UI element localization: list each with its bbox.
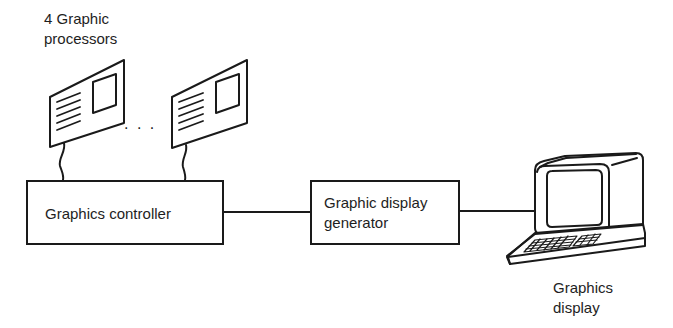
processor-board-icon xyxy=(172,60,247,180)
display-label-line1: Graphics xyxy=(553,278,613,297)
generator-label-line1: Graphic display xyxy=(324,193,427,212)
computer-terminal-icon xyxy=(507,153,645,264)
graphics-controller-box: Graphics controller xyxy=(26,180,224,245)
processor-board-icon xyxy=(50,60,124,180)
graphic-display-generator-box: Graphic display generator xyxy=(310,180,460,245)
graphics-controller-label: Graphics controller xyxy=(45,204,171,223)
display-label-line2: display xyxy=(553,298,600,317)
generator-label-line2: generator xyxy=(324,213,388,232)
processors-ellipsis: . . . xyxy=(124,114,156,133)
